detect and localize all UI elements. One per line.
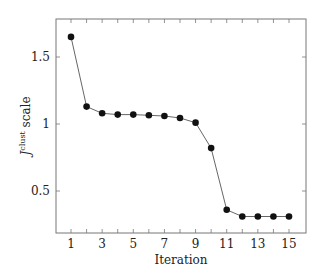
x-tick-label: 5 xyxy=(129,237,137,251)
data-point-marker xyxy=(286,213,293,220)
y-tick-label: 0.5 xyxy=(31,184,50,198)
x-tick-label: 3 xyxy=(98,237,106,251)
x-tick-label: 15 xyxy=(281,237,296,251)
data-point-marker xyxy=(192,119,199,126)
data-point-marker xyxy=(239,213,246,220)
x-tick-label: 11 xyxy=(219,237,234,251)
data-point-marker xyxy=(161,113,168,120)
data-point-marker xyxy=(68,34,75,41)
data-point-marker xyxy=(270,213,277,220)
data-point-marker xyxy=(99,110,106,117)
data-point-marker xyxy=(114,111,121,118)
y-tick-labels: 0.511.5 xyxy=(31,50,50,198)
data-point-marker xyxy=(208,145,215,152)
y-tick-label: 1.5 xyxy=(31,50,50,64)
data-point-marker xyxy=(255,213,262,220)
data-point-marker xyxy=(130,111,137,118)
y-axis-label-sup: clust xyxy=(18,130,27,150)
data-point-marker xyxy=(223,206,230,213)
x-tick-label: 7 xyxy=(161,237,169,251)
x-tick-labels: 13579111315 xyxy=(67,237,296,251)
y-tick-label: 1 xyxy=(42,117,50,131)
axis-ticks xyxy=(56,19,306,233)
x-axis-label: Iteration xyxy=(154,253,207,267)
x-tick-label: 9 xyxy=(192,237,200,251)
data-point-marker xyxy=(146,112,153,119)
x-tick-label: 13 xyxy=(250,237,265,251)
data-point-marker xyxy=(177,115,184,122)
data-markers xyxy=(68,34,293,220)
plot-frame xyxy=(56,19,306,233)
y-axis-label: Jclust scale xyxy=(18,96,33,158)
series-line xyxy=(71,37,289,217)
line-chart: 13579111315 0.511.5 Iteration Jclust sca… xyxy=(0,0,321,277)
x-tick-label: 1 xyxy=(67,237,75,251)
data-point-marker xyxy=(83,103,90,110)
y-axis-label-rest: scale xyxy=(19,96,33,131)
